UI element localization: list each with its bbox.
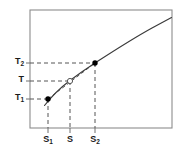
x-axis-label-S2-sub: 2 <box>96 138 100 145</box>
plot-frame <box>30 10 172 128</box>
y-axis-label-T1-sub: 1 <box>20 96 24 103</box>
y-axis-label-T-text: T <box>19 74 25 84</box>
plot-canvas <box>0 0 191 150</box>
point-S1-T1-marker <box>45 96 50 101</box>
point-S-T-marker <box>67 78 72 83</box>
y-axis-label-T: T <box>6 75 24 84</box>
x-axis-label-S1: S1 <box>39 135 57 144</box>
point-S2-T2-marker <box>92 60 97 65</box>
y-axis-label-T2-sub: 2 <box>20 60 24 67</box>
x-axis-label-S-text: S <box>67 134 73 144</box>
x-axis-label-S2: S2 <box>86 135 104 144</box>
y-axis-label-T2: T2 <box>6 57 24 66</box>
y-axis-label-T1: T1 <box>6 93 24 102</box>
figure-root: T2 T T1 S1 S S2 <box>0 0 191 150</box>
x-axis-label-S1-sub: 1 <box>49 138 53 145</box>
x-axis-label-S: S <box>61 135 79 144</box>
